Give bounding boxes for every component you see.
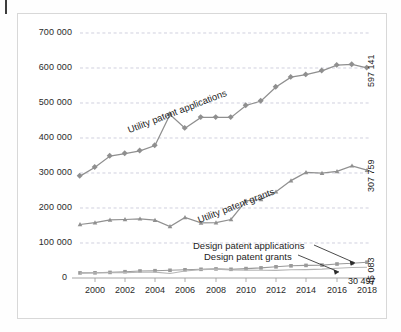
y-tick-label-200000: 200 000	[18, 202, 72, 212]
series-line-design-grants	[80, 267, 367, 273]
y-tick-label-500000: 500 000	[18, 97, 72, 107]
y-tick-label-600000: 600 000	[18, 62, 72, 72]
end-label-design-grants: 30 497	[348, 276, 376, 286]
y-tick-label-100000: 100 000	[18, 237, 72, 247]
chart-container: 700 000 600 000 500 000 400 000 300 000 …	[17, 13, 387, 319]
arrow-design-applications	[314, 245, 355, 263]
series-line-design-applications	[80, 262, 367, 273]
end-label-utility-grants: 307 759	[366, 159, 376, 192]
y-tick-label-700000: 700 000	[18, 27, 72, 37]
y-tick-label-400000: 400 000	[18, 132, 72, 142]
x-axis-ticks	[95, 278, 367, 282]
page-edge-artifact	[5, 0, 7, 14]
series-markers-utility-applications	[77, 61, 370, 179]
end-label-utility-applications: 597 141	[366, 54, 376, 87]
x-tick-label-2018: 2018	[347, 285, 387, 295]
y-tick-label-0: 0	[18, 272, 67, 282]
y-tick-label-300000: 300 000	[18, 167, 72, 177]
callout-label-design-grants: Design patent grants	[204, 251, 292, 262]
line-chart-plot	[18, 14, 386, 318]
callout-label-design-applications: Design patent applications	[193, 240, 304, 251]
series-line-utility-applications	[80, 65, 367, 177]
annotation-arrows	[298, 245, 355, 275]
page-canvas: 700 000 600 000 500 000 400 000 300 000 …	[0, 0, 401, 332]
